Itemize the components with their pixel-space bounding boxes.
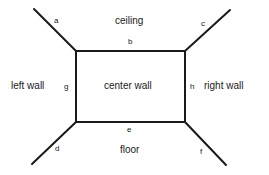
label-edge-b: b — [128, 38, 132, 46]
label-left-wall: left wall — [11, 81, 44, 91]
label-edge-f: f — [200, 148, 202, 156]
edge-c — [185, 10, 230, 51]
edge-f — [185, 122, 226, 165]
label-edge-g: g — [64, 83, 68, 91]
label-right-wall: right wall — [204, 81, 243, 91]
label-edge-a: a — [54, 17, 58, 25]
label-ceiling: ceiling — [115, 16, 143, 26]
label-center-wall: center wall — [104, 81, 152, 91]
label-edge-e: e — [127, 126, 131, 134]
label-edge-c: c — [201, 20, 205, 28]
label-floor: floor — [120, 145, 139, 155]
label-edge-d: d — [55, 145, 59, 153]
label-edge-h: h — [190, 83, 194, 91]
edge-d — [32, 122, 76, 164]
